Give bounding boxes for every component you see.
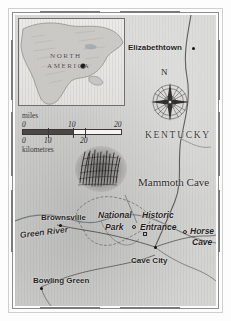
compass-north-label: N: [161, 67, 168, 77]
label-brownsville[interactable]: Brownsville: [41, 213, 86, 222]
scale-ticks-miles: 0 10 20: [22, 120, 126, 129]
label-kentucky: KENTUCKY: [145, 130, 211, 140]
frame-rail-bottom-1: [40, 307, 100, 309]
frame-rail-left-2: [11, 112, 13, 176]
label-historic-entrance-line1[interactable]: Historic: [142, 210, 174, 220]
frame-rail-left-3: [11, 190, 13, 252]
scale-bar-graphic: [22, 129, 122, 135]
marker-visitor-center[interactable]: [143, 232, 147, 236]
map-page: NORTH AMERICA miles 0 10 20 0 10 20 kilo: [0, 0, 231, 321]
compass-rose: N: [147, 67, 193, 125]
compass-rose-icon: [147, 79, 193, 125]
map-canvas[interactable]: NORTH AMERICA miles 0 10 20 0 10 20 kilo: [15, 15, 216, 306]
frame-rail-bottom-2: [120, 307, 180, 309]
inset-label-line2: AMERICA: [47, 62, 90, 70]
inset-map-north-america[interactable]: NORTH AMERICA: [18, 18, 125, 106]
frame-rail-right-2: [218, 112, 220, 176]
label-national-park-line2[interactable]: Park: [105, 222, 123, 232]
marker-horse-cave[interactable]: [183, 230, 187, 234]
label-bowling-green[interactable]: Bowling Green: [33, 276, 89, 285]
scale-tick-miles-0: 0: [22, 120, 26, 129]
frame-rail-top-1: [40, 11, 100, 13]
marker-historic-entrance[interactable]: [132, 225, 136, 229]
inset-label-line1: NORTH: [50, 52, 82, 60]
scale-caption-miles: miles: [22, 111, 126, 120]
scale-tick-km-10: 10: [44, 136, 52, 145]
label-elizabethtown[interactable]: Elizabethtown: [128, 43, 182, 52]
label-cave-city[interactable]: Cave City: [131, 256, 167, 265]
frame-rail-right-3: [218, 190, 220, 252]
frame-rail-top-2: [120, 11, 180, 13]
scale-tick-miles-20: 20: [114, 120, 122, 129]
label-historic-entrance-line2[interactable]: Entrance: [140, 222, 176, 232]
label-national-park-line1[interactable]: National: [98, 210, 132, 220]
scale-tick-miles-10: 10: [68, 120, 76, 129]
label-horse-cave-line1[interactable]: Horse: [190, 226, 214, 236]
label-horse-cave-line2[interactable]: Cave: [192, 237, 212, 247]
cave-passage-system: [72, 143, 130, 195]
scale-tick-km-0: 0: [22, 136, 26, 145]
frame-rail-left-1: [11, 40, 13, 100]
label-mammoth-cave[interactable]: Mammoth Cave: [138, 176, 209, 188]
frame-rail-right-1: [218, 40, 220, 100]
